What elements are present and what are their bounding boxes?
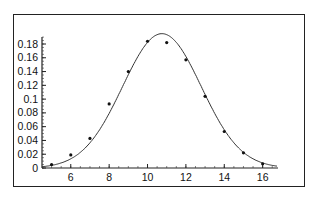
data-point <box>184 58 187 61</box>
y-tick-label: 0.12 <box>18 79 39 91</box>
chart-plot: 00.020.040.060.080.10.120.140.160.18 681… <box>0 0 314 198</box>
y-tick-label: 0.14 <box>18 65 39 77</box>
y-tick-label: 0.02 <box>18 148 39 160</box>
data-point <box>127 70 130 73</box>
data-point <box>108 102 111 105</box>
axes <box>42 37 278 168</box>
y-tick-label: 0.08 <box>18 106 39 118</box>
x-tick-label: 6 <box>68 171 74 183</box>
x-tick-label: 14 <box>218 171 230 183</box>
data-point <box>261 162 264 165</box>
fitted-curve <box>42 34 277 167</box>
y-tick-label: 0.18 <box>18 38 39 50</box>
data-point <box>50 163 53 166</box>
y-tick-label: 0.16 <box>18 51 39 63</box>
data-point <box>242 151 245 154</box>
x-tick-label: 8 <box>106 171 112 183</box>
y-tick-label: 0 <box>32 162 38 174</box>
y-tick-label: 0.06 <box>18 120 39 132</box>
x-tick-label: 10 <box>142 171 154 183</box>
data-point <box>88 137 91 140</box>
data-point <box>165 41 168 44</box>
y-tick-label: 0.04 <box>18 134 39 146</box>
data-points <box>50 40 264 167</box>
data-point <box>146 40 149 43</box>
data-point <box>223 130 226 133</box>
x-tick-label: 12 <box>180 171 192 183</box>
y-tick-label: 0.1 <box>23 93 38 105</box>
data-point <box>203 95 206 98</box>
x-axis-ticks: 6810121416 <box>52 164 273 183</box>
data-point <box>69 153 72 156</box>
x-tick-label: 16 <box>257 171 269 183</box>
